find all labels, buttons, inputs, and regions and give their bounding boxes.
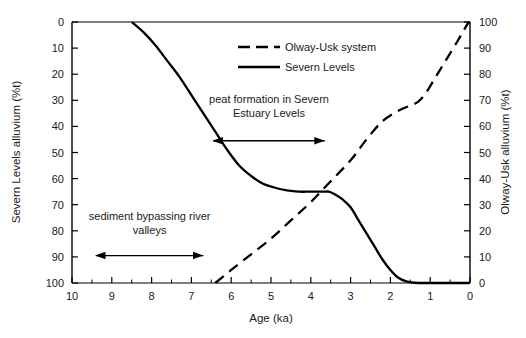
y-tick-label: 20 xyxy=(52,68,64,80)
y-tick-label: 30 xyxy=(52,94,64,106)
legend-label-severn-levels: Severn Levels xyxy=(285,61,355,73)
x-tick-label: 0 xyxy=(467,290,473,302)
x-axis-title: Age (ka) xyxy=(249,312,293,324)
y-tick-label: 70 xyxy=(52,199,64,211)
chart-figure: 109876543210 0102030405060708090100 1009… xyxy=(0,0,526,338)
y2-tick-label: 90 xyxy=(479,42,491,54)
annotation-text-sediment-line1: sediment bypassing river xyxy=(89,210,211,222)
y-tick-label: 50 xyxy=(52,147,64,159)
x-tick-label: 6 xyxy=(228,290,234,302)
y2-tick-label: 80 xyxy=(479,68,491,80)
y2-tick-label: 60 xyxy=(479,120,491,132)
y-tick-label: 60 xyxy=(52,173,64,185)
y-axis-title: Severn Levels alluvium (%t) xyxy=(10,81,22,224)
annotation-text-peat-line1: peat formation in Severn xyxy=(209,93,329,105)
y-tick-label: 90 xyxy=(52,251,64,263)
legend-label-olway-usk-system: Olway-Usk system xyxy=(285,41,376,53)
y-tick-label: 0 xyxy=(58,16,64,28)
x-tick-label: 1 xyxy=(427,290,433,302)
y2-tick-label: 40 xyxy=(479,173,491,185)
y-tick-label: 10 xyxy=(52,42,64,54)
y-tick-label: 40 xyxy=(52,120,64,132)
y2-tick-label: 20 xyxy=(479,225,491,237)
y2-tick-label: 30 xyxy=(479,199,491,211)
y2-tick-label: 100 xyxy=(479,16,497,28)
annotation-text-peat-line2: Estuary Levels xyxy=(233,107,306,119)
x-tick-label: 8 xyxy=(149,290,155,302)
y2-tick-label: 0 xyxy=(479,277,485,289)
y2-tick-label: 10 xyxy=(479,251,491,263)
x-tick-label: 4 xyxy=(308,290,314,302)
x-tick-label: 2 xyxy=(387,290,393,302)
x-tick-label: 3 xyxy=(348,290,354,302)
x-tick-label: 7 xyxy=(188,290,194,302)
secondary-y-axis-title: Olway-Usk alluvium (%t) xyxy=(499,89,511,214)
alluvium-age-line-chart: 109876543210 0102030405060708090100 1009… xyxy=(0,0,526,338)
x-tick-label: 10 xyxy=(66,290,78,302)
y2-tick-label: 70 xyxy=(479,94,491,106)
chart-background xyxy=(0,0,526,338)
x-tick-label: 5 xyxy=(268,290,274,302)
y2-tick-label: 50 xyxy=(479,147,491,159)
y-tick-label: 100 xyxy=(46,277,64,289)
y-tick-label: 80 xyxy=(52,225,64,237)
x-tick-label: 9 xyxy=(109,290,115,302)
annotation-text-sediment-line2: valleys xyxy=(133,224,167,236)
